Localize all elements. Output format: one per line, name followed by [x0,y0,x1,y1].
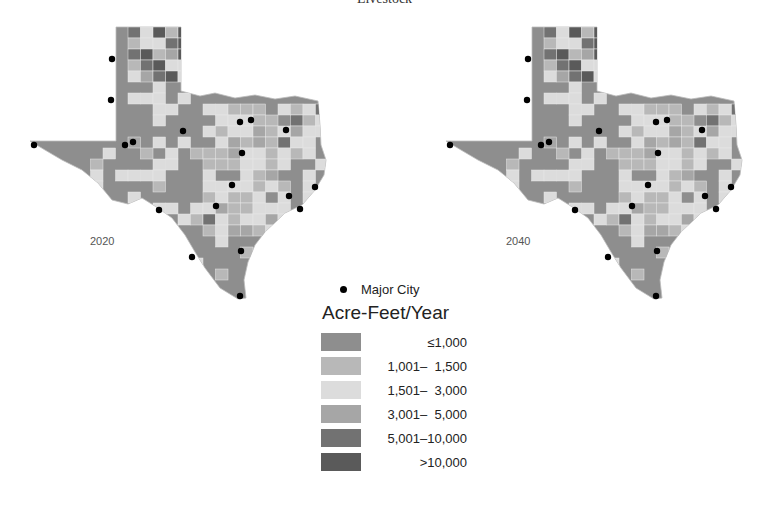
major-city-marker [572,207,578,213]
major-city-marker [728,184,734,190]
major-city-marker [447,142,453,148]
major-city-marker [653,293,659,299]
legend-class: 1,501– 3,000 [321,378,480,402]
major-city-marker [645,182,651,188]
major-city-marker [524,97,530,103]
major-city-marker [156,207,162,213]
legend-class-label: 1,001– 1,500 [367,359,467,374]
major-city-marker [130,139,136,145]
major-city-marker [239,150,245,156]
major-city-marker [546,139,552,145]
year-label-2020: 2020 [90,235,114,247]
major-city-marker [629,203,635,209]
legend-class-label: >10,000 [367,455,467,470]
swatch [321,357,361,375]
major-city-marker [312,184,318,190]
major-city-marker [653,119,659,125]
legend-class-label: ≤1,000 [367,335,467,350]
major-city-marker [297,206,303,212]
major-city-marker [286,193,292,199]
legend-class-label: 5,001–10,000 [367,431,467,446]
swatch [321,381,361,399]
major-city-marker [699,127,705,133]
major-city-marker [122,142,128,148]
major-city-marker [180,128,186,134]
legend-title: Acre-Feet/Year [322,302,480,324]
swatch [321,429,361,447]
swatch [321,405,361,423]
major-city-marker [237,293,243,299]
major-city-marker [213,203,219,209]
major-city-marker [538,142,544,148]
major-city-marker [596,128,602,134]
major-city-marker [283,127,289,133]
major-city-marker [713,206,719,212]
major-city-marker [525,56,531,62]
major-city-marker [654,248,660,254]
legend-class: ≤1,000 [321,330,480,354]
legend-class: 3,001– 5,000 [321,402,480,426]
major-city-marker [238,248,244,254]
map-2040 [446,27,744,299]
legend-class-label: 1,501– 3,000 [367,383,467,398]
major-city-marker [664,117,670,123]
legend-class: >10,000 [321,450,480,474]
legend: Major City Acre-Feet/Year ≤1,000 1,001– … [310,280,480,474]
major-city-marker [605,254,611,260]
year-label-2040: 2040 [506,235,530,247]
major-city-marker [108,97,114,103]
major-city-marker [248,117,254,123]
swatch [321,333,361,351]
swatch [321,453,361,471]
legend-major-city: Major City [320,280,480,298]
map-2020 [30,27,328,299]
major-city-marker [702,193,708,199]
major-city-marker [655,150,661,156]
city-dot-icon [340,286,347,293]
major-city-marker [189,254,195,260]
major-city-marker [237,119,243,125]
legend-class: 1,001– 1,500 [321,354,480,378]
major-city-marker [109,56,115,62]
legend-city-label: Major City [361,282,420,297]
major-city-marker [31,142,37,148]
legend-class: 5,001–10,000 [321,426,480,450]
major-city-marker [229,182,235,188]
legend-class-label: 3,001– 5,000 [367,407,467,422]
